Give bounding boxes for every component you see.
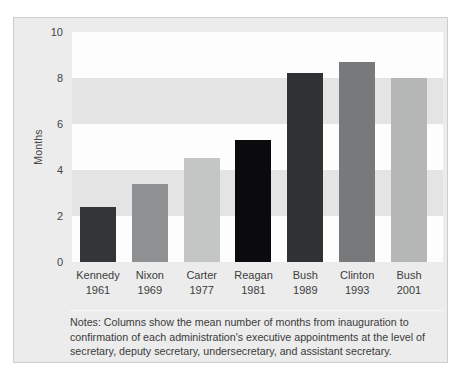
inauguration-year: 1981 <box>234 283 273 298</box>
bar-clinton-1993 <box>339 62 375 262</box>
bar-kennedy-1961 <box>80 207 116 262</box>
figure-box: Months 0246810 Kennedy1961Nixon1969Carte… <box>13 17 448 363</box>
inauguration-year: 2001 <box>396 283 421 298</box>
x-label-clinton-1993: Clinton1993 <box>339 268 375 297</box>
president-name: Reagan <box>234 268 273 283</box>
page: Months 0246810 Kennedy1961Nixon1969Carte… <box>0 0 457 376</box>
bar-nixon-1969 <box>132 184 168 262</box>
x-labels-row: Kennedy1961Nixon1969Carter1977Reagan1981… <box>72 268 443 297</box>
x-label-bush-2001: Bush2001 <box>391 268 427 297</box>
x-label-carter-1977: Carter1977 <box>184 268 220 297</box>
y-tick-label-10: 10 <box>14 25 63 39</box>
president-name: Kennedy <box>76 268 119 283</box>
x-label-text: Clinton1993 <box>340 268 374 297</box>
y-tick-label-8: 8 <box>14 71 63 85</box>
inauguration-year: 1989 <box>293 283 318 298</box>
president-name: Clinton <box>340 268 374 283</box>
president-name: Bush <box>293 268 318 283</box>
inauguration-year: 1961 <box>76 283 119 298</box>
president-name: Carter <box>186 268 217 283</box>
president-name: Nixon <box>136 268 164 283</box>
y-axis-ticks: 0246810 <box>14 32 63 262</box>
x-label-text: Carter1977 <box>186 268 217 297</box>
y-tick-label-0: 0 <box>14 255 63 269</box>
notes-text: Notes: Columns show the mean number of m… <box>70 315 448 359</box>
x-label-text: Nixon1969 <box>136 268 164 297</box>
president-name: Bush <box>396 268 421 283</box>
x-label-reagan-1981: Reagan1981 <box>235 268 271 297</box>
bar-reagan-1981 <box>235 140 271 262</box>
y-tick-label-2: 2 <box>14 209 63 223</box>
inauguration-year: 1977 <box>186 283 217 298</box>
bar-bush-1989 <box>287 73 323 262</box>
y-tick-label-6: 6 <box>14 117 63 131</box>
x-label-kennedy-1961: Kennedy1961 <box>80 268 116 297</box>
bars-row <box>72 32 443 262</box>
inauguration-year: 1969 <box>136 283 164 298</box>
plot-area <box>72 32 443 262</box>
bar-bush-2001 <box>391 78 427 262</box>
x-label-text: Bush1989 <box>293 268 318 297</box>
y-tick-label-4: 4 <box>14 163 63 177</box>
x-label-text: Bush2001 <box>396 268 421 297</box>
x-label-text: Kennedy1961 <box>76 268 119 297</box>
x-label-nixon-1969: Nixon1969 <box>132 268 168 297</box>
notes-separator-line <box>70 310 444 311</box>
bar-carter-1977 <box>184 158 220 262</box>
x-label-bush-1989: Bush1989 <box>287 268 323 297</box>
x-label-text: Reagan1981 <box>234 268 273 297</box>
inauguration-year: 1993 <box>340 283 374 298</box>
